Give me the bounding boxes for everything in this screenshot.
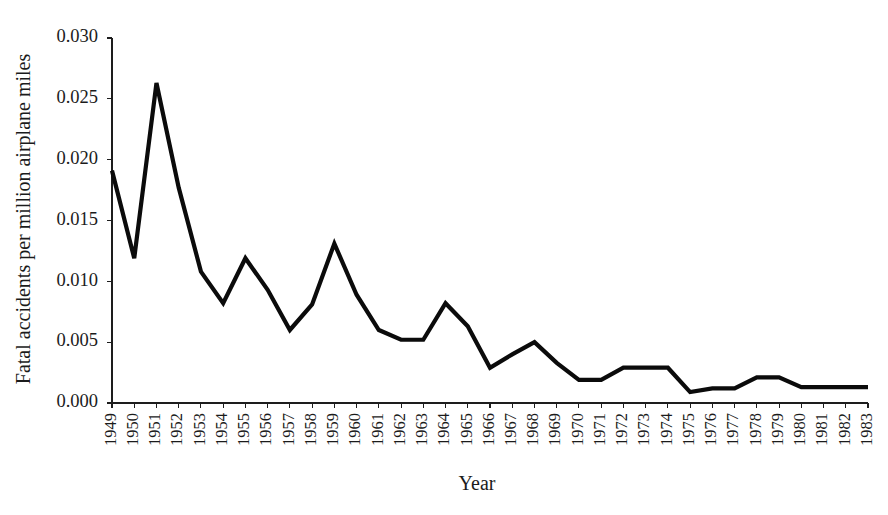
x-axis-tick-label: 1980 — [790, 413, 809, 446]
x-axis-tick-labels: 1949195019511952195319541955195619571958… — [101, 413, 876, 446]
y-axis-tick-label: 0.025 — [56, 87, 98, 107]
x-axis-tick-label: 1983 — [857, 413, 876, 446]
x-axis-tick-label: 1973 — [634, 413, 653, 446]
x-axis-tick-label: 1954 — [212, 413, 231, 446]
y-axis-tick-label: 0.005 — [56, 330, 98, 350]
x-axis-tick-label: 1976 — [701, 413, 720, 446]
x-axis-tick-label: 1956 — [256, 413, 275, 446]
x-axis-tick-label: 1975 — [679, 413, 698, 446]
y-axis-tick-label: 0.015 — [56, 209, 98, 229]
x-axis-tick-label: 1974 — [657, 413, 676, 446]
x-axis-tick-label: 1952 — [167, 413, 186, 446]
chart-figure: 0.0000.0050.0100.0150.0200.0250.030 1949… — [0, 0, 888, 515]
x-axis-tick-label: 1949 — [101, 413, 120, 446]
y-axis-tick-label: 0.000 — [56, 391, 98, 411]
x-axis-tick-label: 1962 — [390, 413, 409, 446]
x-axis-tick-label: 1953 — [190, 413, 209, 446]
x-axis-tick-label: 1960 — [345, 413, 364, 446]
x-axis-tick-label: 1964 — [434, 413, 453, 446]
x-axis-title: Year — [459, 472, 496, 494]
x-axis-tick-label: 1967 — [501, 413, 520, 446]
x-axis-tick-label: 1958 — [301, 413, 320, 446]
y-axis-tick-label: 0.010 — [56, 270, 98, 290]
x-axis-tick-label: 1950 — [123, 413, 142, 446]
x-axis-tick-label: 1959 — [323, 413, 342, 446]
x-axis-tick-label: 1961 — [368, 413, 387, 446]
x-axis-tick-label: 1969 — [545, 413, 564, 446]
x-axis-tick-label: 1970 — [568, 413, 587, 446]
x-axis-tick-label: 1968 — [523, 413, 542, 446]
y-axis-tick-label: 0.030 — [56, 26, 98, 46]
y-axis-title: Fatal accidents per million airplane mil… — [12, 54, 35, 385]
x-axis-tick-label: 1972 — [612, 413, 631, 446]
y-axis-tick-label: 0.020 — [56, 148, 98, 168]
x-axis-tick-label: 1957 — [279, 413, 298, 446]
x-axis-tick-label: 1951 — [145, 413, 164, 446]
x-axis-tick-label: 1966 — [479, 413, 498, 446]
x-axis-tick-label: 1979 — [768, 413, 787, 446]
x-axis-tick-label: 1978 — [746, 413, 765, 446]
x-axis-tick-label: 1963 — [412, 413, 431, 446]
data-series-line — [112, 83, 868, 392]
x-axis-tick-label: 1955 — [234, 413, 253, 446]
line-chart: 0.0000.0050.0100.0150.0200.0250.030 1949… — [0, 0, 888, 515]
x-axis-tick-label: 1971 — [590, 413, 609, 446]
x-axis-tick-label: 1982 — [835, 413, 854, 446]
x-axis-tick-label: 1977 — [723, 413, 742, 446]
y-axis-tick-labels: 0.0000.0050.0100.0150.0200.0250.030 — [56, 26, 98, 411]
x-axis-tick-label: 1965 — [457, 413, 476, 446]
x-axis-tick-label: 1981 — [812, 413, 831, 446]
